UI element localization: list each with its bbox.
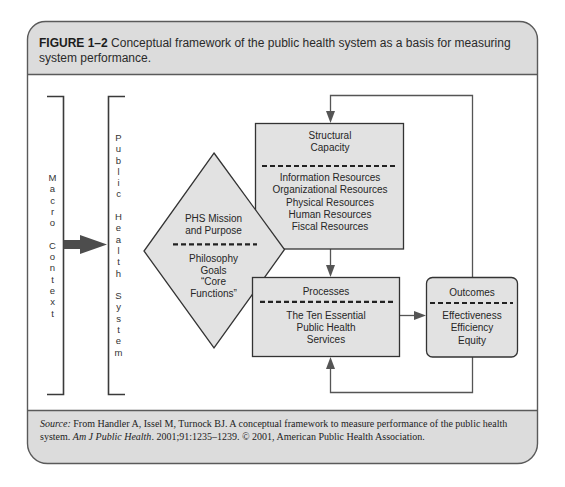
outcomes-item: Effectiveness xyxy=(442,310,501,321)
public-health-system-label-wrap: Public Health System xyxy=(108,96,128,394)
figure-label: FIGURE 1–2 xyxy=(39,36,108,50)
figure-canvas: Structural Capacity Information Resource… xyxy=(0,0,565,487)
arrow-up-icon xyxy=(326,357,335,369)
phs-mission-item: Goals xyxy=(200,265,226,276)
phs-mission-item: Functions” xyxy=(190,288,237,299)
public-health-system-label: Public Health System xyxy=(113,132,123,358)
source-citation-details: . 2001;91:1235–1239. © 2001, American Pu… xyxy=(151,431,424,442)
processes-item: The Ten Essential xyxy=(286,310,365,321)
structural-capacity-item: Human Resources xyxy=(289,209,372,220)
macro-context-label: Macro Context xyxy=(47,172,57,319)
phs-mission-item: Philosophy xyxy=(189,253,238,264)
processes-item: Public Health xyxy=(297,322,356,333)
source-label: Source: xyxy=(40,418,71,429)
source-journal: Am J Public Health xyxy=(73,431,152,442)
arrow-right-icon xyxy=(414,311,426,320)
structural-capacity-heading: Structural xyxy=(309,130,352,141)
processes-item: Services xyxy=(307,334,345,345)
macro-context-label-wrap: Macro Context xyxy=(42,96,62,394)
outcomes-heading: Outcomes xyxy=(449,287,495,298)
structural-capacity-item: Information Resources xyxy=(280,172,381,183)
structural-capacity-item: Organizational Resources xyxy=(272,184,387,195)
outcomes-item: Equity xyxy=(458,335,486,346)
structural-capacity-heading: Capacity xyxy=(311,142,350,153)
structural-capacity-item: Fiscal Resources xyxy=(292,221,369,232)
arrow-down-icon xyxy=(326,265,335,277)
figure-title: FIGURE 1–2 Conceptual framework of the p… xyxy=(39,36,529,66)
structural-capacity-item: Physical Resources xyxy=(286,197,374,208)
processes-heading: Processes xyxy=(303,286,350,297)
source-caption: Source: From Handler A, Issel M, Turnock… xyxy=(40,417,528,443)
figure-title-text: Conceptual framework of the public healt… xyxy=(39,36,511,65)
phs-mission-heading: PHS Mission xyxy=(185,213,242,224)
phs-mission-item: “Core xyxy=(201,276,226,287)
phs-mission-heading: and Purpose xyxy=(185,225,242,236)
outcomes-item: Efficiency xyxy=(451,322,494,333)
arrow-down-icon xyxy=(326,111,335,123)
feedback-connector-bottom xyxy=(331,357,473,393)
macro-to-system-arrow-icon xyxy=(64,235,108,254)
